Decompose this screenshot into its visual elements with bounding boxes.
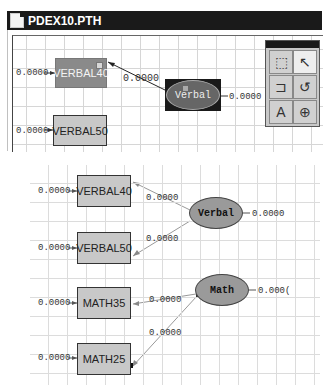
resize-handle[interactable] (96, 62, 103, 69)
curved-path-tool[interactable]: ↺ (293, 75, 317, 99)
select-rectangle-icon: ⬚ (275, 54, 288, 70)
path-value-verbal-verbal40: 0.0000 (146, 193, 178, 203)
latent-math[interactable]: Math (195, 274, 249, 306)
one-way-path-tool[interactable]: ⊐ (269, 75, 293, 99)
error-value-verbal40: 0.0000 (16, 68, 48, 78)
error-value-math25: 0.0000 (38, 353, 70, 363)
text-tool[interactable]: A (269, 100, 293, 124)
toolbox-titlebar[interactable] (266, 41, 319, 48)
node-verbal40[interactable]: VERBAL40 (55, 58, 107, 88)
select-rectangle-tool[interactable]: ⬚ (269, 50, 293, 74)
curved-arrow-icon: ↺ (299, 79, 311, 95)
toolbox-palette: ⬚ ↖ ⊐ ↺ A ⊕ (265, 40, 320, 127)
latent-verbal[interactable]: Verbal (189, 197, 243, 229)
error-value-verbal50: 0.0000 (38, 243, 70, 253)
node-label: VERBAL40 (76, 185, 132, 197)
error-value-verbal50: 0.0000 (16, 126, 48, 136)
node-label: MATH25 (83, 353, 126, 365)
zoom-icon: ⊕ (299, 104, 311, 120)
node-verbal50[interactable]: VERBAL50 (53, 115, 107, 146)
node-verbal40[interactable]: VERBAL40 (77, 175, 131, 207)
node-verbal50[interactable]: VERBAL50 (77, 232, 131, 264)
path-icon: ⊐ (275, 79, 287, 95)
path-value-verbal-verbal50: 0.0000 (146, 234, 178, 244)
path-value-math-math25: 0.0000 (149, 328, 181, 338)
node-label: VERBAL50 (76, 242, 132, 254)
error-value-verbal40: 0.0000 (38, 186, 70, 196)
latent-label: Verbal (175, 90, 211, 101)
arrow-tool[interactable]: ↖ (293, 50, 317, 74)
error-value-math35: 0.0000 (38, 298, 70, 308)
variance-value-math: 0.000( (258, 286, 290, 296)
latent-label: Verbal (198, 208, 234, 219)
node-label: VERBAL50 (52, 125, 108, 137)
node-math25[interactable]: MATH25 (77, 343, 131, 375)
path-value-verbal-verbal40: 0.0000 (123, 73, 159, 84)
resize-handle[interactable] (183, 86, 188, 91)
path-value-math-math35: 0.0000 (149, 295, 181, 305)
variance-value-verbal: 0.0000 (229, 92, 261, 102)
latent-label: Math (210, 285, 234, 296)
text-icon: A (276, 104, 285, 120)
arrow-icon: ↖ (299, 54, 311, 70)
variance-value-verbal: 0.0000 (252, 209, 284, 219)
latent-verbal-top[interactable]: Verbal (166, 80, 220, 110)
node-label: MATH35 (83, 297, 126, 309)
zoom-tool[interactable]: ⊕ (293, 100, 317, 124)
node-math35[interactable]: MATH35 (77, 287, 131, 319)
